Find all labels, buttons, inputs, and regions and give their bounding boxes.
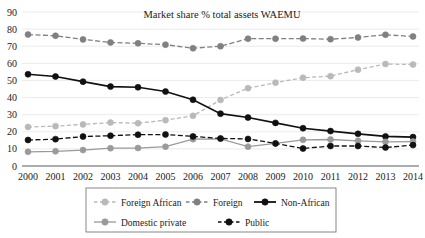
data-point: [355, 131, 361, 137]
data-point: [218, 43, 224, 49]
data-point: [135, 145, 141, 151]
x-tick-label: 2010: [293, 171, 313, 182]
x-tick-label: 2014: [403, 171, 423, 182]
data-point: [53, 148, 59, 154]
data-point: [218, 97, 224, 103]
data-point: [245, 144, 251, 150]
data-point: [245, 36, 251, 42]
data-point: [383, 145, 389, 151]
data-point: [273, 140, 279, 146]
data-point: [135, 132, 141, 138]
data-point: [53, 74, 59, 80]
x-tick-label: 2011: [321, 171, 341, 182]
legend-marker: [194, 199, 200, 205]
chart-legend: Foreign AfricanForeignNon-AfricanDomesti…: [86, 188, 336, 232]
y-tick-label: 90: [7, 7, 17, 18]
data-point: [25, 71, 31, 77]
x-tick-label: 2001: [46, 171, 66, 182]
data-point: [300, 137, 306, 143]
data-point: [25, 32, 31, 38]
y-tick-label: 50: [7, 75, 17, 86]
y-tick-label: 10: [7, 143, 17, 154]
series-non-african: [25, 71, 416, 140]
legend-label: Domestic private: [121, 218, 186, 228]
data-point: [80, 134, 86, 140]
series-line: [28, 74, 413, 137]
data-point: [163, 89, 169, 95]
data-point: [135, 40, 141, 46]
data-point: [328, 128, 334, 134]
x-tick-label: 2005: [156, 171, 176, 182]
x-axis-tick-labels: 2000200120022003200420052006200720082009…: [18, 171, 423, 182]
data-point: [300, 146, 306, 152]
legend-marker: [102, 219, 108, 225]
data-point: [245, 115, 251, 121]
data-point: [80, 147, 86, 153]
x-tick-label: 2002: [73, 171, 93, 182]
data-point: [328, 143, 334, 149]
data-point: [410, 33, 416, 39]
legend-label: Non-African: [281, 198, 330, 208]
legend-marker: [262, 199, 268, 205]
data-point: [410, 142, 416, 148]
data-point: [108, 84, 114, 90]
x-tick-label: 2000: [18, 171, 38, 182]
legend-label: Public: [245, 218, 269, 228]
data-point: [300, 36, 306, 42]
x-tick-label: 2013: [376, 171, 396, 182]
x-tick-label: 2004: [128, 171, 148, 182]
y-tick-label: 80: [7, 24, 17, 35]
data-point: [53, 123, 59, 129]
data-point: [190, 97, 196, 103]
x-tick-label: 2007: [211, 171, 231, 182]
data-point: [328, 136, 334, 142]
data-point: [25, 137, 31, 143]
data-point: [163, 144, 169, 150]
data-point: [80, 79, 86, 85]
data-point: [190, 113, 196, 119]
data-point: [163, 42, 169, 48]
y-tick-label: 0: [12, 161, 17, 172]
data-point: [383, 139, 389, 145]
data-point: [25, 124, 31, 130]
data-point: [25, 149, 31, 155]
data-point: [300, 75, 306, 81]
series-line: [28, 64, 413, 127]
data-point: [273, 80, 279, 86]
y-axis-tick-labels: 0102030405060708090: [7, 7, 17, 172]
y-tick-label: 40: [7, 92, 17, 103]
data-point: [190, 45, 196, 51]
legend-marker: [226, 219, 232, 225]
data-point: [108, 145, 114, 151]
x-tick-label: 2009: [266, 171, 286, 182]
x-tick-label: 2003: [101, 171, 121, 182]
y-tick-label: 30: [7, 109, 17, 120]
data-point: [108, 39, 114, 45]
data-point: [245, 136, 251, 142]
data-series-layer: [25, 32, 416, 155]
data-point: [190, 133, 196, 139]
data-point: [245, 85, 251, 91]
data-point: [80, 36, 86, 42]
data-point: [273, 36, 279, 42]
series-foreign: [25, 32, 416, 52]
data-point: [328, 36, 334, 42]
data-point: [355, 35, 361, 41]
market-share-line-chart: 0102030405060708090 20002001200220032004…: [0, 0, 425, 238]
legend-label: Foreign: [213, 198, 243, 208]
data-point: [328, 73, 334, 79]
legend-label: Foreign African: [121, 198, 182, 208]
data-point: [53, 33, 59, 39]
data-point: [300, 125, 306, 131]
data-point: [410, 62, 416, 68]
data-point: [135, 120, 141, 126]
legend-marker: [102, 199, 108, 205]
data-point: [355, 67, 361, 73]
data-point: [383, 32, 389, 38]
data-point: [383, 61, 389, 67]
data-point: [80, 121, 86, 127]
x-tick-label: 2012: [348, 171, 368, 182]
y-tick-label: 60: [7, 58, 17, 69]
data-point: [135, 84, 141, 90]
x-tick-label: 2006: [183, 171, 203, 182]
